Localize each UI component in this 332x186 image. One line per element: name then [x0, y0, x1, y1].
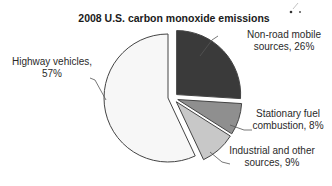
slice-label-line: sources, 26%: [254, 41, 315, 52]
slice-label: Stationary fuelcombustion, 8%: [252, 108, 323, 131]
slice-label: Highway vehicles,57%: [12, 56, 92, 79]
slice-label-line: Non-road mobile: [247, 29, 321, 40]
slice-label-line: 57%: [42, 68, 62, 79]
slice-label: Non-road mobilesources, 26%: [247, 29, 321, 52]
chart-title: 2008 U.S. carbon monoxide emissions: [78, 12, 270, 24]
scan-artifact-dots: [290, 3, 301, 13]
slice-label-line: combustion, 8%: [252, 120, 323, 131]
slice-label-line: Highway vehicles,: [12, 56, 92, 67]
pie-chart: 2008 U.S. carbon monoxide emissions Non-…: [0, 0, 332, 186]
slice-label: Industrial and othersources, 9%: [229, 145, 315, 168]
slice-label-line: Industrial and other: [229, 145, 315, 156]
slice-label-line: sources, 9%: [244, 157, 299, 168]
slice-label-line: Stationary fuel: [256, 108, 320, 119]
pie-slice-non-road-mobile-sources: [177, 31, 241, 99]
